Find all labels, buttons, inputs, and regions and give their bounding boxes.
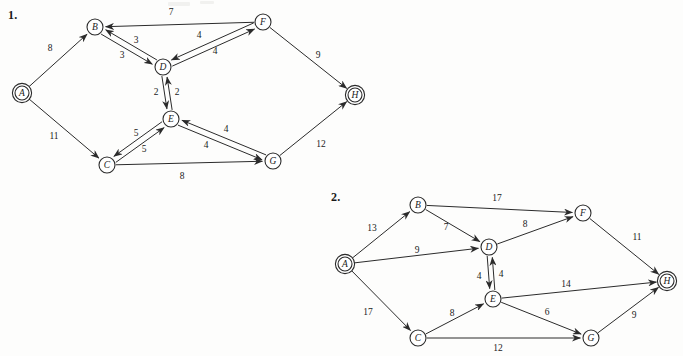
edge-weight-E-H: 14: [561, 279, 571, 289]
edge-A-to-C: [351, 270, 410, 330]
edge-weight-B-D: 7: [444, 222, 449, 232]
edge-weight-C-G: 12: [493, 343, 503, 353]
edge-layer: 13917177844814612119: [351, 193, 659, 353]
edge-E-to-H: [502, 282, 657, 298]
edge-weight-E-G: 6: [545, 307, 550, 317]
edge-E-to-D: [492, 257, 495, 290]
edge-B-to-D: [426, 209, 480, 241]
node-c: C: [410, 330, 426, 346]
node-a: A: [335, 254, 354, 273]
edge-weight-A-D: 9: [415, 245, 420, 255]
node-label-e: E: [489, 294, 496, 304]
graph-figures-page: 811337442255448912ABCDEFGH13917177844814…: [0, 0, 683, 356]
node-label-c: C: [415, 333, 422, 343]
edge-weight-B-F: 17: [492, 193, 502, 203]
node-f: F: [575, 205, 591, 221]
figure-number-1: 1.: [8, 8, 17, 23]
figure-number-2: 2.: [331, 190, 340, 205]
node-label-g: G: [588, 333, 595, 343]
edge-weight-E-D: 4: [499, 269, 504, 279]
node-label-f: F: [579, 208, 586, 218]
edge-weight-G-H: 9: [632, 310, 637, 320]
edge-weight-A-B: 13: [367, 223, 377, 233]
node-layer: ABCDEFGH: [335, 197, 676, 346]
node-label-h: H: [663, 276, 672, 286]
edge-C-to-E: [426, 304, 484, 334]
edge-B-to-F: [427, 205, 573, 212]
node-h: H: [657, 271, 676, 290]
node-d: D: [481, 239, 497, 255]
node-label-a: A: [341, 259, 348, 269]
node-e: E: [485, 291, 501, 307]
edge-G-to-H: [598, 287, 658, 332]
edge-weight-A-C: 17: [363, 307, 373, 317]
edge-D-to-F: [497, 217, 573, 244]
edge-weight-D-F: 8: [523, 219, 528, 229]
edge-E-to-G: [501, 302, 581, 334]
edge-A-to-B: [352, 212, 410, 259]
node-g: G: [583, 330, 599, 346]
node-label-d: D: [485, 242, 493, 252]
edge-D-to-E: [487, 256, 490, 289]
edge-weight-F-H: 11: [632, 232, 641, 242]
edge-weight-D-E: 4: [477, 271, 482, 281]
figure-2: 13917177844814612119ABCDEFGH: [0, 0, 683, 356]
edge-F-to-H: [590, 219, 659, 275]
edge-weight-C-E: 8: [450, 308, 455, 318]
node-b: B: [410, 197, 426, 213]
node-label-b: B: [415, 200, 421, 210]
